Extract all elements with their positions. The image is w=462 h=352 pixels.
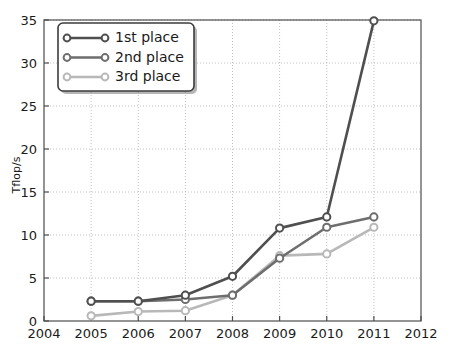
y-axis-ticks	[44, 20, 49, 321]
data-point	[88, 312, 95, 319]
legend-entry-label: 2nd place	[115, 49, 184, 65]
data-point	[370, 213, 377, 220]
y-axis-title: Tflop/s	[10, 156, 23, 194]
x-tick-label: 2009	[263, 326, 296, 341]
data-point	[276, 225, 283, 232]
line-chart-canvas: 05101520253035 2004200520062007200820092…	[0, 0, 462, 352]
data-point	[229, 292, 236, 299]
y-tick-label: 35	[20, 13, 37, 28]
x-axis-ticks	[44, 316, 421, 321]
legend-swatch-marker	[64, 35, 71, 42]
y-tick-label: 10	[20, 228, 37, 243]
chart-legend: 1st place2nd place3rd place	[58, 23, 197, 94]
data-point	[88, 298, 95, 305]
x-tick-label: 2006	[122, 326, 155, 341]
data-point	[323, 250, 330, 257]
y-tick-label: 20	[20, 142, 37, 157]
data-point	[276, 255, 283, 262]
data-point	[323, 213, 330, 220]
x-tick-label: 2004	[27, 326, 60, 341]
data-point	[323, 224, 330, 231]
legend-swatch-marker	[64, 74, 71, 81]
y-tick-label: 25	[20, 99, 37, 114]
legend-swatch-marker	[64, 54, 71, 61]
legend-entry-label: 3rd place	[115, 68, 180, 84]
x-tick-label: 2010	[310, 326, 343, 341]
legend-swatch-marker	[102, 54, 109, 61]
x-tick-label: 2008	[216, 326, 249, 341]
x-tick-label: 2012	[404, 326, 437, 341]
x-axis-tick-labels: 200420052006200720082009201020112012	[27, 326, 437, 341]
x-tick-label: 2011	[357, 326, 390, 341]
chart-figure: 05101520253035 2004200520062007200820092…	[0, 0, 462, 352]
data-point	[135, 308, 142, 315]
data-point	[370, 17, 377, 24]
x-tick-label: 2007	[169, 326, 202, 341]
data-point	[370, 224, 377, 231]
legend-swatch-marker	[102, 35, 109, 42]
data-point	[135, 298, 142, 305]
x-tick-label: 2005	[75, 326, 108, 341]
y-tick-label: 30	[20, 56, 37, 71]
series-line	[91, 217, 374, 301]
data-point	[182, 307, 189, 314]
legend-swatch-marker	[102, 74, 109, 81]
data-point	[229, 273, 236, 280]
data-point	[182, 292, 189, 299]
y-tick-label: 5	[29, 271, 37, 286]
legend-entry-label: 1st place	[115, 29, 179, 45]
